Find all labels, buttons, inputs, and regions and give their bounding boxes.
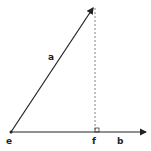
vector-a-arrow: [11, 8, 93, 132]
label-f: f: [92, 136, 96, 146]
label-b: b: [117, 136, 124, 146]
label-e: e: [6, 136, 12, 146]
label-a: a: [48, 52, 54, 62]
projection-diagram: a e f b: [0, 0, 151, 151]
origin-point: [10, 131, 13, 134]
